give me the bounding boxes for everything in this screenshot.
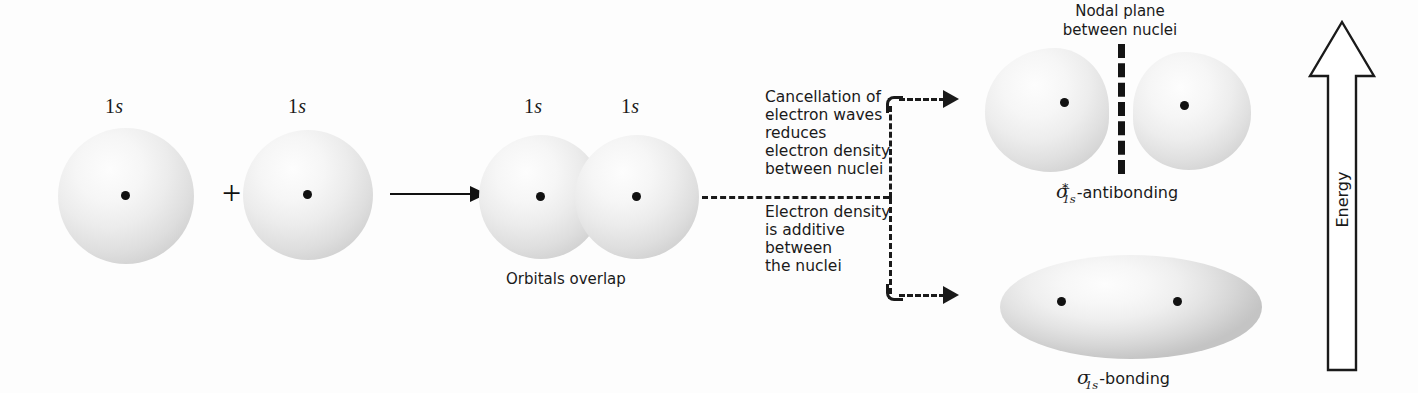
- connector-trunk: [702, 196, 889, 199]
- bonding-orbital-shape: [1000, 255, 1262, 359]
- antibonding-lobe-right: [1133, 52, 1251, 170]
- nodal-plane-caption-line2: between nuclei: [1025, 21, 1215, 39]
- mo-formation-diagram: 1s + 1s 1s 1s Orbitals overlap: [0, 0, 1418, 393]
- atomic-orbital-right-label: 1s: [288, 95, 306, 118]
- antibonding-label: σ*1s-antibonding: [1056, 180, 1190, 206]
- overlap-right-nucleus: [632, 192, 641, 201]
- antibonding-lobe-left: [985, 48, 1109, 172]
- reaction-arrow-shaft: [390, 193, 472, 195]
- connector-lower-arrowhead: [943, 286, 959, 304]
- overlap-left-label: 1s: [524, 95, 542, 118]
- overlap-caption: Orbitals overlap: [506, 270, 626, 288]
- antibonding-nucleus-left: [1060, 98, 1069, 107]
- antibonding-nucleus-right: [1180, 101, 1189, 110]
- connector-upper-run: [899, 98, 945, 101]
- bonding-annotation: Electron density is additive between the…: [765, 203, 890, 275]
- plus-operator: +: [222, 176, 241, 210]
- bonding-label: σ1s-bonding: [1077, 366, 1174, 392]
- energy-axis-label: Energy: [1333, 164, 1352, 236]
- connector-upper-arrowhead: [943, 90, 959, 108]
- overlap-right-label: 1s: [621, 95, 639, 118]
- bonding-nucleus-right: [1173, 297, 1182, 306]
- connector-lower-corner: [886, 284, 903, 301]
- atomic-orbital-right-nucleus: [303, 190, 312, 199]
- antibonding-annotation: Cancellation of electron waves reduces e…: [765, 88, 890, 178]
- bonding-nucleus-left: [1057, 297, 1066, 306]
- connector-lower-run: [899, 294, 945, 297]
- atomic-orbital-left-nucleus: [121, 191, 130, 200]
- nodal-plane-line: [1118, 44, 1125, 174]
- atomic-orbital-left-label: 1s: [105, 95, 123, 118]
- nodal-plane-caption-line1: Nodal plane: [1025, 2, 1215, 20]
- overlap-left-nucleus: [536, 192, 545, 201]
